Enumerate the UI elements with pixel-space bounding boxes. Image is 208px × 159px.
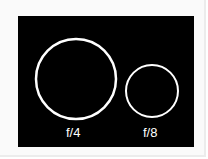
label-f4: f/4	[66, 126, 80, 139]
aperture-circles	[0, 0, 208, 159]
aperture-circle-f8	[126, 65, 178, 117]
aperture-circle-f4	[36, 39, 116, 119]
label-f8: f/8	[143, 126, 157, 139]
